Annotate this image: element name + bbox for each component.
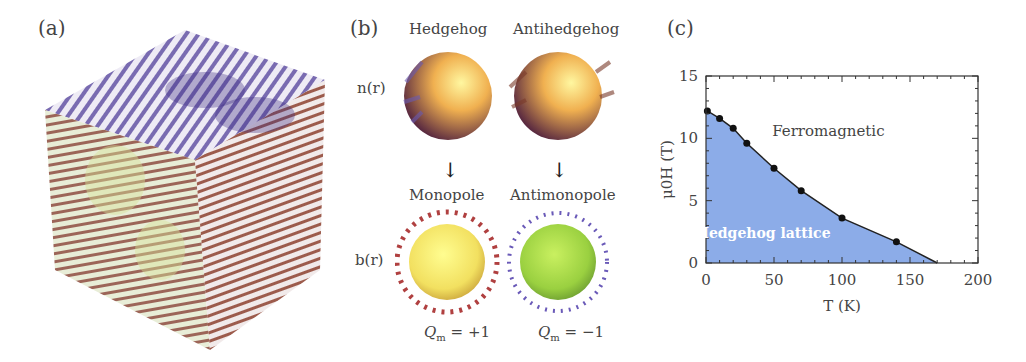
antimonopole-sphere <box>509 213 607 311</box>
data-point <box>839 215 846 222</box>
arrow-down-icon: ↓ <box>551 158 568 182</box>
hedgehog-spheres <box>400 42 650 154</box>
monopole-sphere <box>397 212 497 312</box>
hedgehog-sphere <box>404 52 492 140</box>
ferromagnetic-label: Ferromagnetic <box>772 122 884 140</box>
x-tick-label: 200 <box>964 271 993 289</box>
arrow-down-icon: ↓ <box>442 158 459 182</box>
x-tick-label: 50 <box>764 271 783 289</box>
monopole-charge: Qm = +1 <box>424 323 490 343</box>
antimonopole-header: Antimonopole <box>510 186 616 204</box>
antihedgehog-header: Antihedgehog <box>513 20 619 38</box>
data-point <box>798 187 805 194</box>
q-symbol: Q <box>424 323 436 341</box>
hedgehog-header: Hedgehog <box>409 20 487 38</box>
panel-b-label: (b) <box>350 16 378 40</box>
data-point <box>730 125 737 132</box>
data-point <box>771 165 778 172</box>
x-tick-label: 0 <box>701 271 711 289</box>
data-point <box>716 115 723 122</box>
hedgehog-lattice-label: Hedgehog lattice <box>696 225 831 241</box>
monopole-spheres <box>395 205 655 320</box>
antihedgehog-sphere <box>510 52 614 140</box>
data-point <box>893 238 900 245</box>
monopole-header: Monopole <box>409 186 484 204</box>
q-subscript: m <box>436 332 445 343</box>
data-point <box>743 140 750 147</box>
n-r-row-label: n(r) <box>357 79 386 97</box>
antimonopole-charge: Qm = −1 <box>538 323 604 343</box>
x-tick-label: 100 <box>828 271 857 289</box>
x-tick-label: 150 <box>896 271 925 289</box>
q-subscript: m <box>550 332 559 343</box>
q-symbol: Q <box>538 323 550 341</box>
y-tick-label: 15 <box>679 67 698 85</box>
y-axis-label: μ0H (T) <box>660 140 676 199</box>
phase-diagram-chart: 050100150200051015FerromagneticHedgehog … <box>660 0 1026 362</box>
y-tick-label: 10 <box>679 129 698 147</box>
y-tick-label: 0 <box>688 254 698 272</box>
x-axis-label: T (K) <box>823 297 861 315</box>
b-r-row-label: b(r) <box>355 251 383 269</box>
monopole-charge-value: +1 <box>468 323 490 341</box>
y-tick-label: 5 <box>688 192 698 210</box>
hedgehog-lattice-cube <box>35 20 335 360</box>
antimonopole-charge-value: −1 <box>582 323 604 341</box>
